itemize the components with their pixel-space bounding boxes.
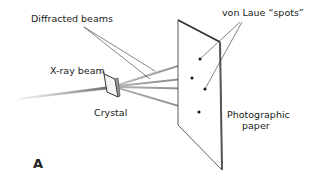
- laue-diagram: Diffracted beams von Laue “spots” X-ray …: [0, 0, 315, 181]
- label-xray-beam: X-ray beam: [50, 65, 105, 76]
- crystal-icon: [104, 74, 120, 97]
- label-von-laue-spots: von Laue “spots”: [222, 7, 304, 18]
- label-paper: paper: [242, 120, 270, 131]
- label-diffracted-beams: Diffracted beams: [31, 13, 113, 24]
- xray-beam: [18, 85, 118, 100]
- photographic-paper: [178, 20, 222, 170]
- label-crystal: Crystal: [94, 107, 127, 118]
- panel-letter: A: [33, 156, 43, 171]
- label-photographic: Photographic: [227, 109, 290, 120]
